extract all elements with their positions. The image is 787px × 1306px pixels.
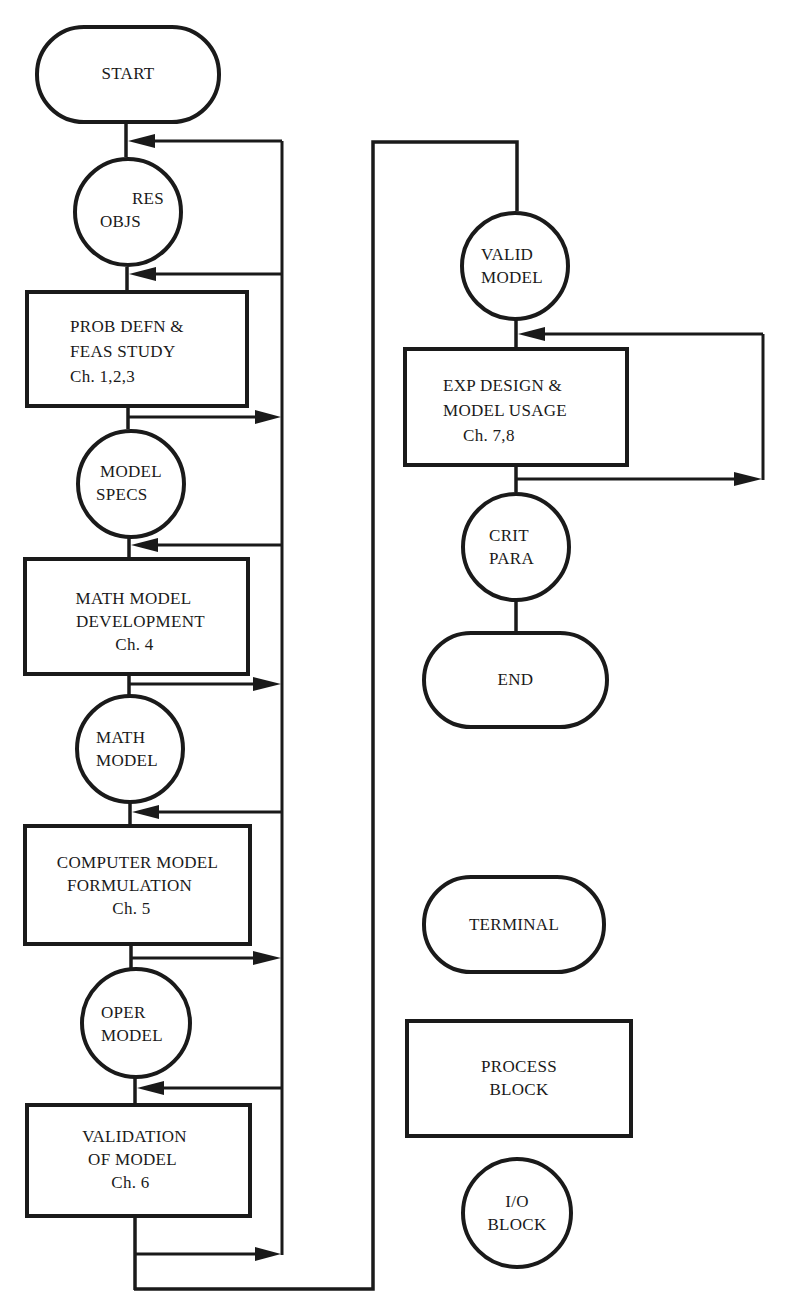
arrow-right-icon bbox=[255, 1247, 281, 1261]
legend-terminal-label: TERMINAL bbox=[424, 913, 604, 936]
arrow-left-icon bbox=[518, 327, 545, 341]
arrow-right-icon bbox=[253, 677, 281, 691]
math-model-dev-label: MATH MODEL DEVELOPMENT Ch. 4 bbox=[25, 587, 248, 656]
legend-process-label: PROCESS BLOCK bbox=[407, 1055, 631, 1101]
arrow-right-icon bbox=[734, 472, 762, 486]
crit-para-label: CRIT PARA bbox=[489, 524, 534, 570]
math-model-label: MATH MODEL bbox=[96, 726, 158, 772]
oper-model-label: OPER MODEL bbox=[101, 1001, 163, 1047]
model-specs-label: MODEL SPECS bbox=[78, 460, 184, 506]
prob-defn-label: PROB DEFN & FEAS STUDY Ch. 1,2,3 bbox=[70, 314, 184, 389]
res-objs-label: RES OBJS bbox=[100, 187, 164, 233]
arrow-left-icon bbox=[132, 805, 159, 819]
arrow-left-icon bbox=[131, 538, 158, 552]
computer-model-label: COMPUTER MODEL FORMULATION Ch. 5 bbox=[25, 851, 250, 920]
valid-model-label: VALID MODEL bbox=[481, 243, 543, 289]
end-label: END bbox=[424, 668, 607, 691]
exp-design-label: EXP DESIGN & MODEL USAGE Ch. 7,8 bbox=[443, 373, 567, 448]
start-label: START bbox=[37, 62, 219, 85]
validation-label: VALIDATION OF MODEL Ch. 6 bbox=[27, 1125, 250, 1194]
arrow-left-icon bbox=[129, 267, 156, 281]
arrow-left-icon bbox=[128, 134, 155, 148]
arrow-right-icon bbox=[253, 951, 281, 965]
legend-io-label: I/O BLOCK bbox=[463, 1190, 571, 1236]
arrow-left-icon bbox=[137, 1081, 164, 1095]
arrow-right-icon bbox=[255, 410, 281, 424]
